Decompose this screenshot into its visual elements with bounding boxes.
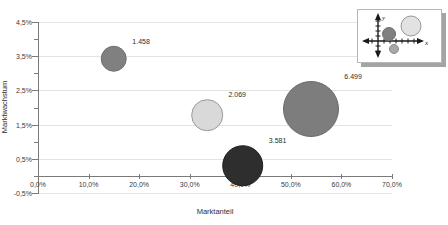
x-axis-tick — [190, 174, 191, 179]
thumbnail-y-axis-label: y — [381, 14, 386, 22]
gridline-horizontal — [38, 159, 392, 160]
x-axis-tick-label: 0,0% — [30, 181, 46, 188]
bubble-value-label: 3.581 — [269, 136, 287, 143]
x-axis-line — [38, 176, 392, 177]
gridline-horizontal — [38, 22, 392, 23]
y-axis-tick — [32, 159, 39, 160]
bubble-chart: -0,5%0,5%1,5%2,5%3,5%4,5%0,0%10,0%20,0%3… — [0, 0, 448, 225]
y-axis-tick-label: 3,5% — [16, 53, 32, 60]
y-axis-minor-tick — [34, 142, 39, 143]
x-axis-tick — [392, 174, 393, 179]
y-axis-tick — [32, 125, 39, 126]
thumbnail-bubble-medium — [383, 28, 396, 41]
y-axis-tick — [32, 56, 39, 57]
arrow-left-icon — [362, 38, 369, 44]
x-axis-tick — [291, 174, 292, 179]
thumbnail-diagram: y x — [358, 10, 439, 60]
arrow-down-icon — [375, 51, 381, 58]
y-axis-tick-label: 2,5% — [16, 87, 32, 94]
x-axis-tick-label: 50,0% — [281, 181, 301, 188]
bubble-value-label: 2.069 — [228, 91, 246, 98]
bubble-value-label: 6.499 — [344, 73, 362, 80]
y-axis-tick-label: 1,5% — [16, 121, 32, 128]
x-axis-tick — [89, 174, 90, 179]
y-axis-minor-tick — [34, 73, 39, 74]
y-axis-tick-label: 0,5% — [16, 155, 32, 162]
arrow-up-icon — [375, 13, 381, 20]
bubble-data-point[interactable] — [192, 99, 224, 131]
x-axis-tick-label: 10,0% — [79, 181, 99, 188]
bubble-value-label: 1.458 — [132, 37, 150, 44]
bubble-data-point[interactable] — [283, 81, 339, 137]
gridline-horizontal — [38, 90, 392, 91]
thumbnail-x-axis-label: x — [424, 39, 429, 47]
y-axis-tick — [32, 90, 39, 91]
y-axis-tick-label: 4,5% — [16, 19, 32, 26]
x-axis-tick — [341, 174, 342, 179]
gridline-horizontal — [38, 193, 392, 194]
y-axis-tick — [32, 193, 39, 194]
gridline-horizontal — [38, 56, 392, 57]
thumbnail-bubble-large — [401, 16, 421, 36]
thumbnail-bubble-small — [390, 45, 399, 54]
y-axis-tick-label: -0,5% — [14, 190, 32, 197]
bubble-data-point[interactable] — [101, 46, 128, 73]
y-axis-minor-tick — [34, 39, 39, 40]
x-axis-tick-label: 70,0% — [382, 181, 402, 188]
x-axis-tick-label: 60,0% — [331, 181, 351, 188]
x-axis-title: Marktanteil — [38, 207, 392, 216]
y-axis-minor-tick — [34, 108, 39, 109]
plot-area: -0,5%0,5%1,5%2,5%3,5%4,5%0,0%10,0%20,0%3… — [38, 22, 392, 193]
x-axis-tick — [38, 174, 39, 179]
y-axis-tick — [32, 22, 39, 23]
x-axis-tick-label: 30,0% — [180, 181, 200, 188]
x-axis-tick-label: 20,0% — [129, 181, 149, 188]
arrow-right-icon — [417, 38, 424, 44]
bubble-chart-thumbnail[interactable]: y x — [357, 9, 442, 63]
bubble-data-point[interactable] — [222, 145, 264, 187]
y-axis-title: Marktwachstum — [0, 81, 9, 134]
x-axis-tick — [139, 174, 140, 179]
